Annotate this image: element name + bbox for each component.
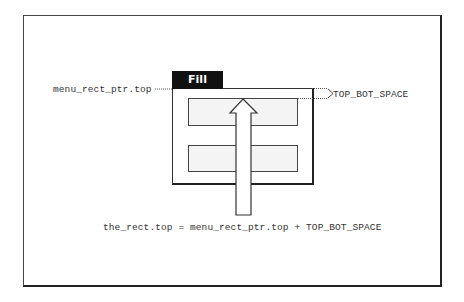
up-arrow-icon [230,99,257,215]
diagram-lines [0,0,464,302]
top-bot-space-label: TOP_BOT_SPACE [333,89,408,100]
formula-label: the_rect.top = menu_rect_ptr.top + TOP_B… [103,222,381,233]
